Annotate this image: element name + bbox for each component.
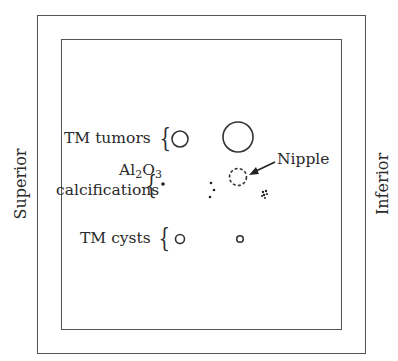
tm-cyst-2 [237,236,244,243]
calcification-dot [210,182,213,185]
tm-tumor-small [172,131,188,147]
calcification-dot [209,196,212,199]
calcification-dot [213,189,216,192]
nipple-arrow [249,162,275,175]
nipple-marker [230,169,247,186]
calcification-cluster [261,190,268,199]
diagram-shapes [0,0,398,361]
tm-cyst-1 [176,235,185,244]
calcification-dot [161,182,165,186]
tm-tumor-large [223,122,253,152]
